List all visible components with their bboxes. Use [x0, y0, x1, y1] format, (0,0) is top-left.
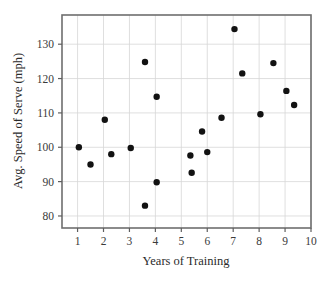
- data-point: [239, 70, 245, 76]
- data-point: [102, 117, 108, 123]
- scatter-plot-figure: 12345678910 8090100110120130 Years of Tr…: [0, 0, 335, 283]
- x-tick-label: 10: [305, 235, 317, 247]
- data-point: [291, 102, 297, 108]
- data-point: [142, 59, 148, 65]
- y-tick-label: 110: [37, 107, 54, 119]
- data-point: [128, 145, 134, 151]
- x-tick-label: 4: [153, 235, 159, 247]
- data-point: [270, 60, 276, 66]
- y-axis-title: Avg. Speed of Serve (mph): [11, 53, 25, 189]
- data-point: [187, 152, 193, 158]
- data-point: [257, 111, 263, 117]
- x-tick-label: 9: [282, 235, 288, 247]
- x-tick-label: 6: [204, 235, 210, 247]
- x-tick-label: 5: [178, 235, 184, 247]
- y-tick-label: 80: [43, 210, 55, 222]
- x-tick-label: 1: [75, 235, 81, 247]
- x-axis-title: Years of Training: [143, 254, 231, 268]
- y-tick-label: 120: [37, 73, 55, 85]
- data-point: [142, 202, 148, 208]
- data-point: [218, 115, 224, 121]
- data-point: [199, 128, 205, 134]
- data-point: [153, 179, 159, 185]
- chart-canvas: 12345678910 8090100110120130 Years of Tr…: [0, 0, 335, 283]
- x-tick-label: 3: [127, 235, 133, 247]
- data-point: [188, 169, 194, 175]
- data-point: [153, 94, 159, 100]
- data-point: [87, 161, 93, 167]
- x-tick-label: 8: [256, 235, 262, 247]
- x-tick-label: 7: [230, 235, 236, 247]
- data-point: [76, 144, 82, 150]
- y-tick-label: 130: [37, 38, 55, 50]
- y-tick-label: 100: [37, 141, 55, 153]
- data-point: [108, 151, 114, 157]
- y-tick-label: 90: [43, 176, 55, 188]
- data-point: [204, 149, 210, 155]
- x-tick-label: 2: [101, 235, 107, 247]
- data-point: [283, 88, 289, 94]
- data-point: [231, 26, 237, 32]
